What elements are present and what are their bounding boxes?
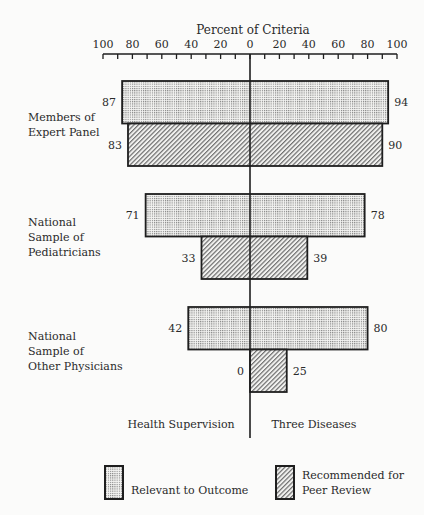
relevant-bar xyxy=(188,307,367,350)
tick-label: 40 xyxy=(184,38,198,51)
value-label-left: 87 xyxy=(102,96,116,109)
relevant-bar xyxy=(146,194,365,237)
left-side-label: Health Supervision xyxy=(127,418,234,431)
side-labels: Health SupervisionThree Diseases xyxy=(127,418,356,431)
value-label-right: 90 xyxy=(388,139,402,152)
legend: Relevant to OutcomeRecommended forPeer R… xyxy=(105,466,405,499)
value-label-right: 39 xyxy=(313,252,327,265)
tick-label: 80 xyxy=(125,38,139,51)
value-label-left: 71 xyxy=(126,209,140,222)
peer-review-bar xyxy=(128,124,382,167)
relevant-bar xyxy=(122,81,388,124)
category-label: Members ofExpert Panel xyxy=(28,111,100,139)
tick-label: 0 xyxy=(247,38,254,51)
value-label-right: 80 xyxy=(374,322,388,335)
value-label-left: 33 xyxy=(181,252,195,265)
bars: 87947178428083903339025 xyxy=(102,81,408,392)
legend-swatch-hatched xyxy=(276,466,294,499)
legend-swatch-dotted xyxy=(105,466,123,499)
category-label: NationalSample ofPediatricians xyxy=(28,216,101,259)
value-label-right: 78 xyxy=(371,209,385,222)
legend-label: Recommended forPeer Review xyxy=(302,469,405,497)
value-label-left: 83 xyxy=(108,139,122,152)
value-label-right: 94 xyxy=(394,96,408,109)
peer-review-bar xyxy=(201,237,307,280)
tick-label: 60 xyxy=(331,38,345,51)
value-label-left: 0 xyxy=(237,365,244,378)
value-label-left: 42 xyxy=(168,322,182,335)
tick-label: 100 xyxy=(93,38,114,51)
tick-label: 100 xyxy=(387,38,408,51)
axis-title: Percent of Criteria xyxy=(196,23,309,37)
category-label: NationalSample ofOther Physicians xyxy=(28,330,123,373)
legend-label: Relevant to Outcome xyxy=(131,484,248,497)
peer-review-bar xyxy=(250,350,287,393)
tick-label: 20 xyxy=(214,38,228,51)
tick-label: 20 xyxy=(272,38,286,51)
tick-label: 60 xyxy=(155,38,169,51)
tick-label: 80 xyxy=(361,38,375,51)
diverging-bar-chart: Percent of Criteria 10080604020020406080… xyxy=(0,0,424,515)
axis-title-text: Percent of Criteria xyxy=(196,23,309,37)
tick-label: 40 xyxy=(302,38,316,51)
value-label-right: 25 xyxy=(293,365,307,378)
right-side-label: Three Diseases xyxy=(271,418,356,431)
